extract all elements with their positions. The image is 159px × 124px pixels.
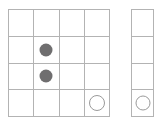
grid-cell-r4-c4[interactable] <box>85 90 110 117</box>
grid-cell-r1-c4[interactable] <box>85 10 110 37</box>
filled-circle-piece-icon[interactable] <box>40 70 53 83</box>
grid-cell-r1-c1[interactable] <box>9 10 34 37</box>
grid-cell-r4-c1[interactable] <box>132 90 154 117</box>
open-circle-piece-icon[interactable] <box>135 96 150 111</box>
filled-circle-piece-icon[interactable] <box>40 43 53 56</box>
grid-cell-r3-c1[interactable] <box>9 64 34 91</box>
grid-cell-r2-c1[interactable] <box>9 37 34 64</box>
grid-cell-r2-c1[interactable] <box>132 37 154 64</box>
grid-cell-r2-c4[interactable] <box>85 37 110 64</box>
grid-cell-r4-c1[interactable] <box>9 90 34 117</box>
main-grid-board[interactable] <box>8 9 110 117</box>
grid-cell-r2-c3[interactable] <box>60 37 85 64</box>
grid-cell-r1-c3[interactable] <box>60 10 85 37</box>
grid-cell-r4-c3[interactable] <box>60 90 85 117</box>
grid-cell-r4-c2[interactable] <box>34 90 59 117</box>
grid-cell-r3-c2[interactable] <box>34 64 59 91</box>
grid-cell-r1-c1[interactable] <box>132 10 154 37</box>
side-grid-board[interactable] <box>131 9 154 117</box>
grid-cell-r3-c3[interactable] <box>60 64 85 91</box>
open-circle-piece-icon[interactable] <box>89 95 105 111</box>
grid-cell-r3-c1[interactable] <box>132 64 154 91</box>
grid-cell-r1-c2[interactable] <box>34 10 59 37</box>
grid-cell-r3-c4[interactable] <box>85 64 110 91</box>
grid-cell-r2-c2[interactable] <box>34 37 59 64</box>
